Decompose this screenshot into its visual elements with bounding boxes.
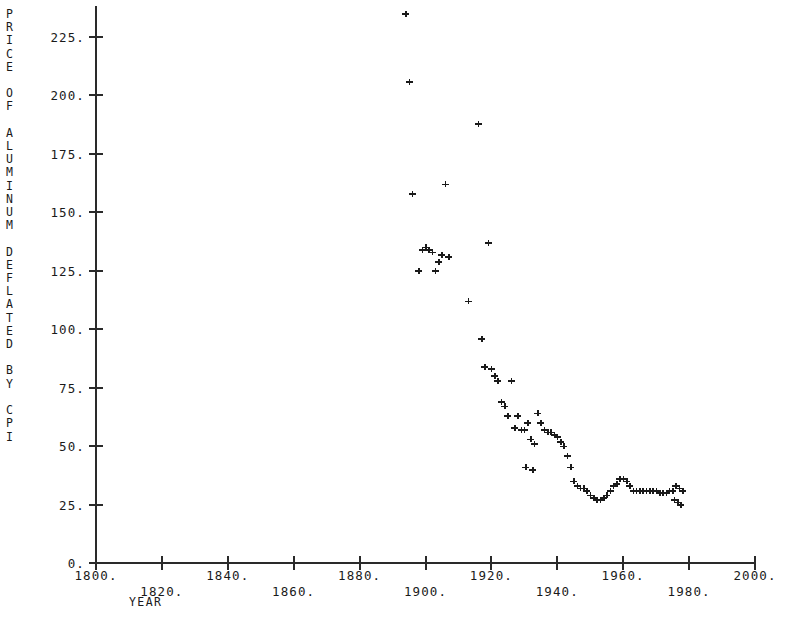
data-point-marker bbox=[663, 489, 670, 496]
data-point-marker bbox=[415, 267, 422, 274]
data-point-marker bbox=[438, 251, 445, 258]
data-point-marker bbox=[659, 489, 666, 496]
data-point-marker bbox=[557, 438, 564, 445]
data-point-marker bbox=[425, 246, 432, 253]
data-point-marker bbox=[529, 466, 536, 473]
y-tick-mark bbox=[89, 94, 103, 96]
y-tick-mark bbox=[89, 504, 103, 506]
x-tick-mark bbox=[293, 556, 295, 570]
chart-figure: P R I C E O F A L U M I N U M D E F L A … bbox=[0, 0, 798, 625]
data-point-marker bbox=[534, 410, 541, 417]
data-point-marker bbox=[560, 443, 567, 450]
data-point-marker bbox=[623, 478, 630, 485]
data-point-marker bbox=[544, 429, 551, 436]
data-point-marker bbox=[524, 419, 531, 426]
y-tick-mark bbox=[89, 270, 103, 272]
data-point-marker bbox=[402, 10, 409, 17]
data-point-marker bbox=[478, 335, 485, 342]
data-point-marker bbox=[541, 426, 548, 433]
data-point-marker bbox=[508, 377, 515, 384]
y-tick-label: 200. bbox=[50, 88, 85, 103]
x-tick-mark bbox=[161, 556, 163, 570]
x-tick-mark bbox=[425, 556, 427, 570]
y-tick-label: 50. bbox=[59, 439, 85, 454]
x-tick-label: 1960. bbox=[602, 568, 645, 583]
y-tick-label: 125. bbox=[50, 263, 85, 278]
y-tick-mark bbox=[89, 153, 103, 155]
data-point-marker bbox=[521, 426, 528, 433]
data-point-marker bbox=[630, 487, 637, 494]
x-tick-label: 1840. bbox=[206, 568, 249, 583]
data-point-marker bbox=[429, 249, 436, 256]
y-tick-label: 175. bbox=[50, 146, 85, 161]
data-point-marker bbox=[406, 78, 413, 85]
data-point-marker bbox=[580, 485, 587, 492]
data-point-marker bbox=[570, 478, 577, 485]
data-point-marker bbox=[603, 492, 610, 499]
y-tick-mark bbox=[89, 211, 103, 213]
data-point-marker bbox=[676, 485, 683, 492]
data-point-marker bbox=[488, 365, 495, 372]
data-point-marker bbox=[577, 485, 584, 492]
data-point-marker bbox=[607, 487, 614, 494]
data-point-marker bbox=[669, 487, 676, 494]
y-tick-mark bbox=[89, 328, 103, 330]
data-point-marker bbox=[649, 487, 656, 494]
y-tick-mark bbox=[89, 387, 103, 389]
data-point-marker bbox=[485, 239, 492, 246]
data-point-marker bbox=[518, 426, 525, 433]
y-tick-label: 25. bbox=[59, 497, 85, 512]
data-point-marker bbox=[531, 440, 538, 447]
x-tick-label: 2000. bbox=[733, 568, 776, 583]
y-axis-line bbox=[95, 6, 97, 565]
data-point-marker bbox=[501, 403, 508, 410]
y-tick-mark bbox=[89, 36, 103, 38]
data-point-marker bbox=[620, 475, 627, 482]
data-point-marker bbox=[583, 487, 590, 494]
data-point-marker bbox=[465, 298, 472, 305]
data-point-marker bbox=[574, 482, 581, 489]
data-point-marker bbox=[504, 412, 511, 419]
data-point-marker bbox=[567, 464, 574, 471]
data-point-marker bbox=[422, 244, 429, 251]
data-point-marker bbox=[475, 120, 482, 127]
data-point-marker bbox=[511, 424, 518, 431]
data-point-marker bbox=[419, 246, 426, 253]
x-axis-title: YEAR bbox=[129, 595, 162, 609]
data-point-marker bbox=[653, 487, 660, 494]
y-tick-label: 100. bbox=[50, 322, 85, 337]
data-point-marker bbox=[672, 482, 679, 489]
data-point-marker bbox=[639, 487, 646, 494]
data-point-marker bbox=[481, 363, 488, 370]
x-tick-mark bbox=[556, 556, 558, 570]
data-point-marker bbox=[674, 499, 681, 506]
data-point-marker bbox=[587, 492, 594, 499]
data-point-marker bbox=[491, 372, 498, 379]
x-tick-label: 1940. bbox=[536, 584, 579, 599]
data-point-marker bbox=[633, 487, 640, 494]
data-point-marker bbox=[613, 480, 620, 487]
data-point-marker bbox=[646, 487, 653, 494]
data-point-marker bbox=[656, 489, 663, 496]
data-point-marker bbox=[679, 487, 686, 494]
data-point-marker bbox=[432, 267, 439, 274]
data-point-marker bbox=[564, 452, 571, 459]
data-point-marker bbox=[498, 398, 505, 405]
y-tick-label: 225. bbox=[50, 30, 85, 45]
y-tick-label: 150. bbox=[50, 205, 85, 220]
data-point-marker bbox=[590, 494, 597, 501]
data-point-marker bbox=[514, 412, 521, 419]
x-tick-label: 1920. bbox=[470, 568, 513, 583]
x-tick-label: 1900. bbox=[404, 584, 447, 599]
data-point-marker bbox=[610, 482, 617, 489]
x-tick-label: 1880. bbox=[338, 568, 381, 583]
data-point-marker bbox=[593, 496, 600, 503]
data-point-marker bbox=[600, 494, 607, 501]
data-point-marker bbox=[597, 496, 604, 503]
data-point-marker bbox=[547, 429, 554, 436]
data-point-marker bbox=[494, 377, 501, 384]
data-point-marker bbox=[445, 253, 452, 260]
data-point-marker bbox=[537, 419, 544, 426]
x-tick-label: 1980. bbox=[668, 584, 711, 599]
data-point-marker bbox=[522, 464, 529, 471]
